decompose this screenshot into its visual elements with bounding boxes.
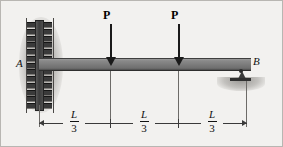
dimension-numerator-2: L [140,109,149,122]
dimension-numerator-3: L [208,109,217,122]
dimension-label-2: L 3 [133,109,155,134]
beam-diagram-figure: A B P P L 3 L 3 L 3 [0,0,283,147]
load-arrow-2: P [174,9,184,67]
fixed-support-hatching-left [27,22,35,109]
dimension-tick-1 [110,119,111,128]
dimension-tick-2 [178,119,179,128]
load-shaft-1 [110,24,112,59]
load-shaft-2 [178,24,180,59]
dimension-denominator-3: 3 [201,122,223,134]
dimension-label-1: L 3 [63,109,85,134]
load-arrowhead-1 [106,57,116,66]
dimension-numerator-1: L [70,109,79,122]
beam-member [39,58,251,71]
dimension-arrow-right [242,120,247,126]
dimension-label-3: L 3 [201,109,223,134]
pin-support-hinge-dot [239,69,243,73]
load-arrowhead-2 [174,57,184,66]
load-label-1: P [103,9,110,21]
pin-support-base [230,78,251,81]
dimension-denominator-2: 3 [133,122,155,134]
support-label-b: B [253,55,260,67]
load-arrow-1: P [106,9,116,67]
support-label-a: A [16,57,23,69]
dimension-denominator-1: 3 [63,122,85,134]
dimension-arrow-left [39,120,44,126]
load-label-2: P [171,9,178,21]
